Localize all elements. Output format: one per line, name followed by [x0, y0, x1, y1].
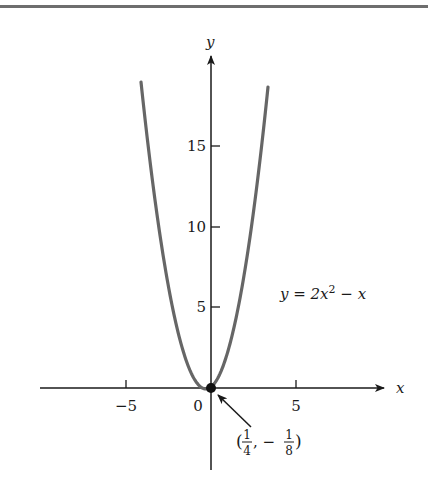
y-tick-label-5: 5	[196, 298, 206, 316]
y-ticks: 5 10 15	[187, 137, 220, 316]
vertex-annotation-arrow	[218, 395, 251, 427]
x-tick-label-0: 0	[193, 397, 203, 415]
equation-exponent: 2	[329, 283, 336, 296]
svg-text:y = 2x2 − x: y = 2x2 − x	[279, 283, 367, 303]
y-tick-label-10: 10	[187, 218, 206, 236]
equation-rhs: − x	[336, 285, 367, 303]
equation-lhs: y = 2x	[279, 285, 329, 303]
x-tick-label-neg5: −5	[115, 397, 137, 415]
vertex-label-sep: , −	[253, 433, 275, 451]
x-axis-label: x	[396, 379, 405, 397]
y-axis-label: y	[205, 33, 215, 51]
equation-label: y = 2x2 − x	[279, 283, 367, 303]
vertex-label: ( 1 4 , − 1 8 )	[236, 428, 302, 458]
vertex-label-open-paren: (	[236, 431, 243, 451]
y-tick-label-15: 15	[187, 137, 206, 155]
vertex-label-num2: 1	[285, 428, 293, 442]
x-tick-label-5: 5	[291, 397, 301, 415]
vertex-label-den1: 4	[243, 444, 251, 458]
vertex-label-num1: 1	[243, 428, 251, 442]
parabola-chart: x y −5 0 5 5 10 15 ( 1 4 , − 1 8 )	[0, 0, 428, 498]
vertex-label-close-paren: )	[295, 431, 302, 451]
vertex-point	[206, 383, 216, 393]
vertex-label-den2: 8	[285, 444, 293, 458]
